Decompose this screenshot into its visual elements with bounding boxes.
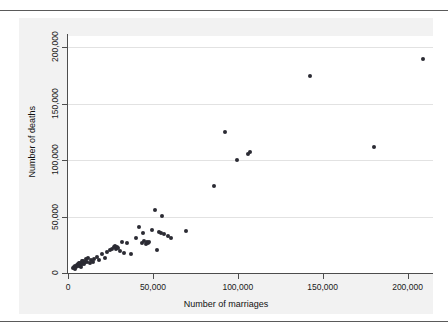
y-axis-tick-label: 100,000: [50, 138, 60, 182]
scatter-point: [120, 240, 124, 244]
scatter-point: [134, 236, 138, 240]
y-axis-tick: [62, 160, 68, 161]
scatter-point: [118, 249, 122, 253]
x-axis-tick-label: 150,000: [307, 282, 338, 292]
scatter-point: [125, 241, 129, 245]
gridline-horizontal: [68, 160, 433, 161]
scatter-point: [372, 145, 376, 149]
scatter-point: [97, 258, 101, 262]
x-axis-tick: [323, 274, 324, 279]
y-axis-tick: [62, 217, 68, 218]
x-axis-tick: [153, 274, 154, 279]
scatter-point: [129, 252, 133, 256]
x-axis-tick: [68, 274, 69, 279]
top-divider-rule: [0, 10, 448, 11]
bottom-divider-rule: [0, 321, 448, 322]
scatter-point: [184, 229, 188, 233]
scatter-point: [421, 57, 425, 61]
scatter-point: [137, 225, 141, 229]
scatter-point: [150, 228, 154, 232]
plot-area: [68, 36, 433, 273]
y-axis-title: Number of deaths: [27, 106, 37, 178]
x-axis-tick-label: 50,000: [140, 282, 166, 292]
figure-container: 050,000100,000150,000200,000 050,000100,…: [0, 0, 448, 332]
y-axis-tick-label: 0: [50, 251, 60, 295]
chart-panel: 050,000100,000150,000200,000 050,000100,…: [19, 18, 433, 314]
scatter-point: [223, 130, 227, 134]
y-axis-tick: [62, 47, 68, 48]
scatter-point: [235, 158, 239, 162]
gridline-horizontal: [68, 217, 433, 218]
y-axis-tick-label: 150,000: [50, 82, 60, 126]
scatter-point: [308, 74, 312, 78]
x-axis-tick-label: 0: [66, 282, 71, 292]
x-axis-tick: [238, 274, 239, 279]
scatter-point: [169, 236, 173, 240]
x-axis-tick: [408, 274, 409, 279]
y-axis-tick-label: 50,000: [50, 195, 60, 239]
scatter-point: [122, 251, 126, 255]
scatter-point: [155, 248, 159, 252]
y-axis-tick: [62, 104, 68, 105]
scatter-point: [212, 184, 216, 188]
x-axis-tick-label: 100,000: [222, 282, 253, 292]
gridline-horizontal: [68, 104, 433, 105]
scatter-point: [147, 240, 151, 244]
x-axis-line: [67, 273, 433, 274]
scatter-point: [248, 150, 252, 154]
x-axis-tick-label: 200,000: [392, 282, 423, 292]
scatter-point: [153, 208, 157, 212]
scatter-point: [141, 231, 145, 235]
scatter-point: [160, 214, 164, 218]
scatter-point: [103, 256, 107, 260]
chart-inner: 050,000100,000150,000200,000 050,000100,…: [19, 18, 433, 314]
y-axis-tick-label: 200,000: [50, 25, 60, 69]
x-axis-title: Number of marriages: [19, 299, 433, 309]
gridline-horizontal: [68, 47, 433, 48]
